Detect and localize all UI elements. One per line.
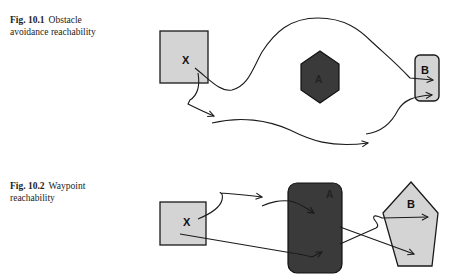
start-label: X: [183, 216, 191, 228]
path-under-obstacle: [212, 119, 368, 144]
start-label: X: [182, 54, 190, 66]
goal-label: B: [407, 198, 415, 210]
goal-pentagon: [383, 182, 438, 266]
diagram-canvas: X A B X A B: [0, 0, 452, 280]
figure-10-2: X A B: [160, 182, 438, 273]
waypoint-box: [288, 183, 342, 273]
goal-label: B: [421, 64, 429, 76]
goal-box: [415, 55, 439, 101]
path-upper-first: [198, 193, 262, 219]
waypoint-label: A: [326, 189, 333, 200]
figure-10-1: X A B: [160, 18, 439, 145]
obstacle-label: A: [315, 74, 322, 85]
